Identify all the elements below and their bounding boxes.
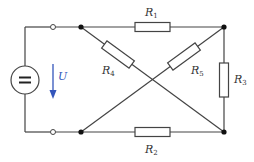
r3-label: R3 (233, 73, 247, 87)
voltage-arrow-icon (50, 64, 57, 99)
circuit-diagram: U R1 R2 R3 R4 R5 (0, 0, 254, 162)
r5-label: R5 (190, 64, 204, 78)
dc-voltage-source (11, 66, 39, 94)
terminal-top (51, 25, 56, 30)
r2-label: R2 (144, 143, 158, 157)
resistor-r1 (135, 23, 170, 32)
source-circle (11, 66, 39, 94)
resistor-r2 (135, 128, 170, 137)
circuit-svg: U R1 R2 R3 R4 R5 (0, 0, 254, 162)
voltage-label: U (58, 70, 68, 83)
r1-label: R1 (144, 6, 158, 20)
node-bottom-right (221, 129, 226, 134)
resistor-r3 (220, 63, 229, 97)
node-top-left (78, 24, 83, 29)
node-bottom-left (78, 129, 83, 134)
terminal-bottom (51, 130, 56, 135)
r4-label: R4 (101, 64, 115, 78)
node-top-right (221, 24, 226, 29)
